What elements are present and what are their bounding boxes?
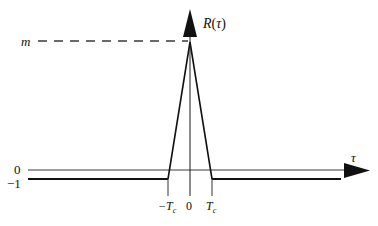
x-label-minus-tc: −Tc — [158, 199, 177, 215]
horizontal-axis-label: τ — [351, 150, 357, 165]
vertical-axis-arrowhead — [183, 9, 197, 37]
x-label-minus-tc-main: −T — [158, 199, 174, 213]
y-label-m: m — [21, 34, 30, 49]
x-label-zero: 0 — [186, 199, 192, 213]
y-label-minus-one: −1 — [7, 176, 21, 191]
x-label-plus-tc: Tc — [206, 199, 217, 215]
x-label-minus-tc-sub: c — [173, 206, 177, 215]
autocorrelation-diagram: R(τ) τ m 0 −1 −Tc 0 Tc — [0, 0, 378, 226]
vertical-axis-label-symbol: R — [202, 16, 212, 31]
x-label-plus-tc-sub: c — [213, 206, 217, 215]
vertical-axis-label: R(τ) — [202, 16, 226, 32]
y-label-zero: 0 — [14, 162, 21, 177]
vertical-axis-label-close: ) — [221, 16, 226, 32]
tau-axis-arrowhead — [344, 163, 370, 178]
